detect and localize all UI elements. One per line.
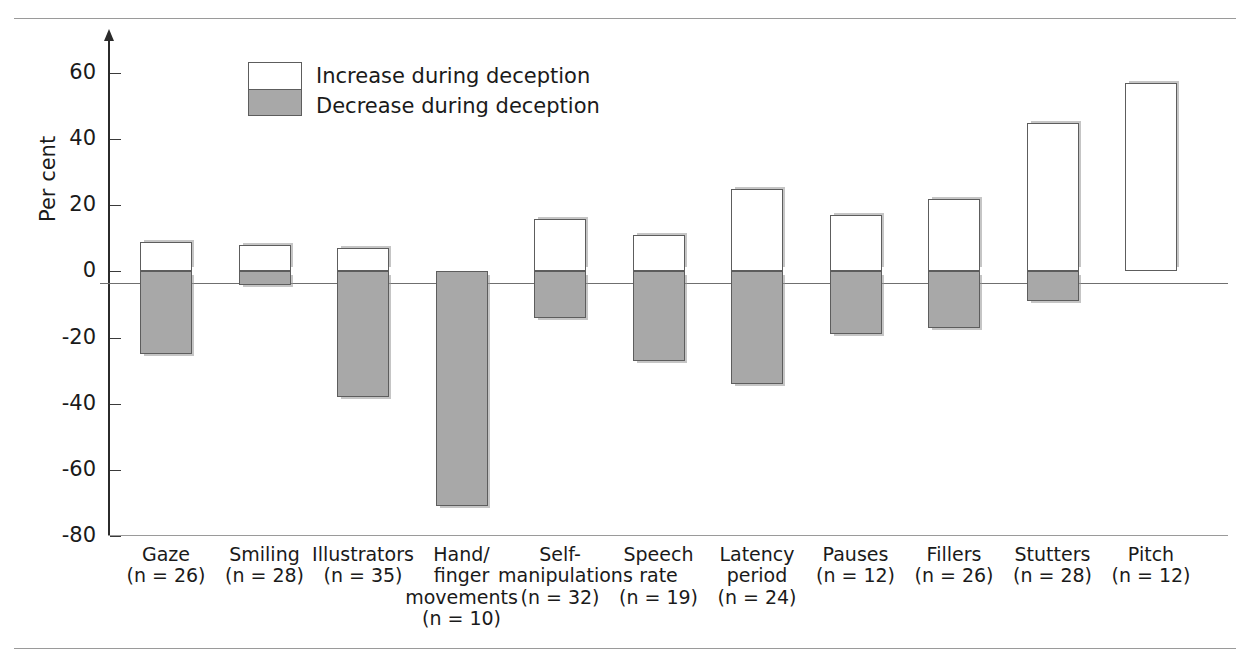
bar-increase[interactable]	[633, 235, 685, 271]
bar-column[interactable]	[830, 40, 882, 536]
y-axis-arrow-icon	[104, 29, 114, 41]
category-label-line: Pitch	[1089, 544, 1213, 565]
category-label-line: (n = 10)	[400, 608, 524, 629]
y-tick-label: 60	[16, 62, 96, 83]
legend: Increase during deception Decrease durin…	[248, 60, 588, 122]
bar-increase[interactable]	[534, 219, 586, 272]
legend-swatch	[248, 62, 302, 116]
y-tick	[110, 404, 121, 405]
y-axis-label: Per cent	[36, 136, 60, 222]
bar-increase[interactable]	[731, 189, 783, 272]
bar-decrease[interactable]	[1027, 271, 1079, 301]
bar-increase[interactable]	[140, 242, 192, 272]
bar-decrease[interactable]	[239, 271, 291, 284]
legend-swatch-decrease	[249, 89, 301, 115]
legend-label-decrease: Decrease during deception	[316, 96, 600, 117]
bar-column[interactable]	[928, 40, 980, 536]
y-tick	[110, 338, 121, 339]
bar-increase[interactable]	[1125, 83, 1177, 271]
bar-increase[interactable]	[928, 199, 980, 272]
category-label-line: (n = 12)	[1089, 565, 1213, 586]
y-tick	[110, 73, 121, 74]
bar-column[interactable]	[1125, 40, 1177, 536]
top-rule	[14, 18, 1236, 19]
bar-decrease[interactable]	[534, 271, 586, 317]
category-label-line: (n = 24)	[695, 587, 819, 608]
bottom-rule	[14, 648, 1236, 649]
y-tick-label: 0	[16, 260, 96, 281]
bar-increase[interactable]	[1027, 123, 1079, 272]
bar-increase[interactable]	[830, 215, 882, 271]
bar-column[interactable]	[140, 40, 192, 536]
y-tick	[110, 271, 121, 272]
y-tick	[110, 139, 121, 140]
bar-decrease[interactable]	[140, 271, 192, 354]
y-tick-label: -40	[16, 393, 96, 414]
bar-decrease[interactable]	[731, 271, 783, 383]
bar-column[interactable]	[1027, 40, 1079, 536]
bar-column[interactable]	[731, 40, 783, 536]
y-tick-label: -60	[16, 459, 96, 480]
bar-decrease[interactable]	[928, 271, 980, 327]
bar-decrease[interactable]	[830, 271, 882, 334]
category-label: Pitch(n = 12)	[1089, 544, 1213, 587]
bar-increase[interactable]	[239, 245, 291, 271]
legend-swatch-increase	[249, 63, 301, 89]
y-tick	[110, 205, 121, 206]
legend-label-increase: Increase during deception	[316, 66, 590, 87]
y-tick-label: -80	[16, 525, 96, 546]
bar-increase[interactable]	[337, 248, 389, 271]
bar-decrease[interactable]	[337, 271, 389, 397]
y-tick	[110, 470, 121, 471]
y-tick	[110, 536, 121, 537]
y-axis-line	[108, 40, 110, 536]
bar-column[interactable]	[633, 40, 685, 536]
figure: 6040200-20-40-60-80 Gaze(n = 26)Smiling(…	[0, 0, 1250, 666]
bar-decrease[interactable]	[633, 271, 685, 360]
bar-decrease[interactable]	[436, 271, 488, 506]
y-tick-label: -20	[16, 327, 96, 348]
